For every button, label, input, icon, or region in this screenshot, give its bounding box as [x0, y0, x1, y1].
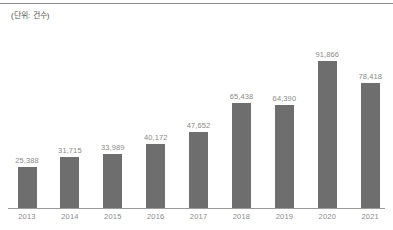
bar-value-label-2017: 47,652: [177, 121, 221, 130]
x-tick-label-2018: 2018: [222, 212, 262, 222]
x-tick-label-2017: 2017: [179, 212, 219, 222]
x-tick-label-2021: 2021: [350, 212, 390, 222]
x-tick-label-2015: 2015: [93, 212, 133, 222]
bar-value-label-2021: 78,418: [348, 72, 392, 81]
x-tick-label-2016: 2016: [136, 212, 176, 222]
bar-2019: [275, 105, 294, 208]
bar-2015: [103, 154, 122, 208]
bar-2020: [318, 61, 337, 208]
bar-2017: [189, 132, 208, 208]
category-axis-line: [8, 208, 385, 209]
x-tick-label-2014: 2014: [50, 212, 90, 222]
x-tick-label-2019: 2019: [264, 212, 304, 222]
bar-value-label-2015: 33,989: [91, 143, 135, 152]
x-tick-label-2020: 2020: [307, 212, 347, 222]
bar-value-label-2014: 31,715: [48, 146, 92, 155]
bar-value-label-2016: 40,172: [134, 133, 178, 142]
bar-2018: [232, 103, 251, 208]
bar-value-label-2020: 91,866: [305, 50, 349, 59]
bar-2013: [18, 167, 37, 208]
bar-value-label-2018: 65,438: [220, 92, 264, 101]
bar-value-label-2019: 64,390: [262, 94, 306, 103]
bar-2016: [146, 144, 165, 208]
bar-2014: [60, 157, 79, 208]
bar-2021: [361, 83, 380, 208]
chart-figure: (단위: 건수) 25,38831,71533,98940,17247,6526…: [0, 0, 393, 230]
x-tick-label-2013: 2013: [7, 212, 47, 222]
plot-area: 25,38831,71533,98940,17247,65265,43864,3…: [0, 0, 393, 230]
bar-value-label-2013: 25,388: [5, 156, 49, 165]
